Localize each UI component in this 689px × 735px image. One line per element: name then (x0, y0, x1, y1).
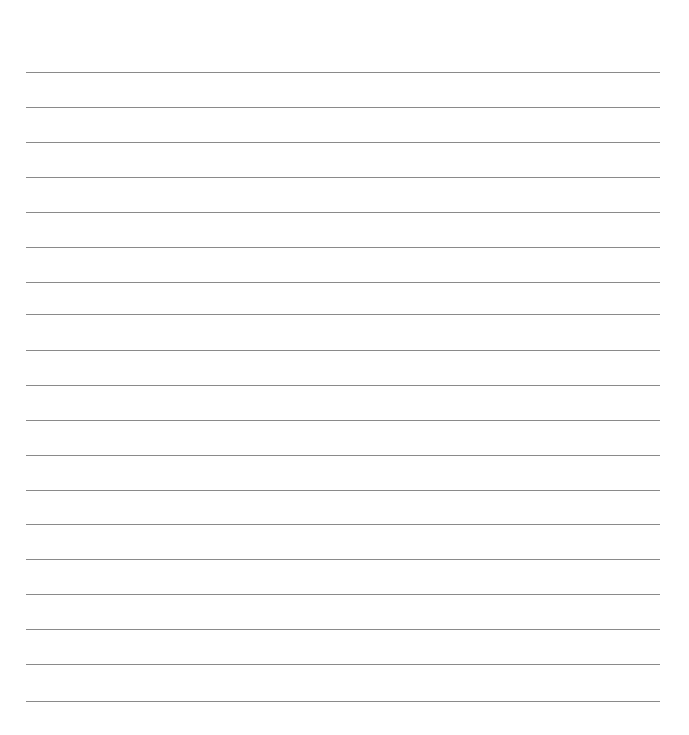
ruled-line (26, 455, 660, 456)
ruled-line (26, 72, 660, 73)
ruled-line (26, 142, 660, 143)
ruled-line (26, 629, 660, 630)
ruled-line (26, 490, 660, 491)
ruled-line (26, 559, 660, 560)
ruled-line (26, 594, 660, 595)
ruled-line (26, 282, 660, 283)
ruled-line (26, 247, 660, 248)
ruled-line (26, 420, 660, 421)
ruled-line (26, 701, 660, 702)
ruled-line (26, 350, 660, 351)
ruled-line (26, 177, 660, 178)
ruled-line (26, 524, 660, 525)
lined-paper-page (0, 0, 689, 735)
ruled-line (26, 212, 660, 213)
ruled-line (26, 314, 660, 315)
ruled-line (26, 664, 660, 665)
ruled-line (26, 385, 660, 386)
ruled-line (26, 107, 660, 108)
